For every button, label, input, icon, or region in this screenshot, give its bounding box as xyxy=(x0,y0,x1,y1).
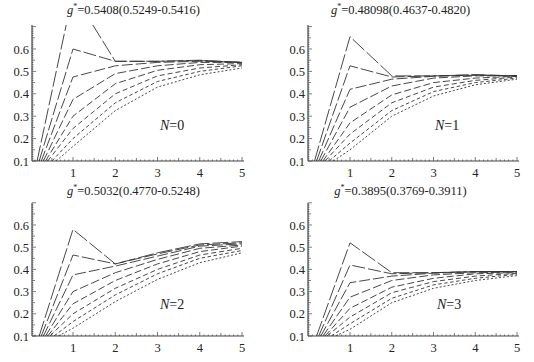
chart-panel-n1: g*=0.48098(0.4637-0.4820) 0.10.20.30.40.… xyxy=(267,0,534,181)
data-series-curve3 xyxy=(41,61,242,161)
x-tick-label: 5 xyxy=(514,166,520,180)
y-tick-label: 0.6 xyxy=(13,219,29,233)
data-series-curve3 xyxy=(43,244,242,336)
axes: 0.10.20.30.40.50.612345 xyxy=(289,25,520,180)
x-tick-label: 4 xyxy=(197,166,204,180)
y-tick-label: 0.5 xyxy=(289,65,305,79)
y-tick-label: 0.5 xyxy=(13,65,29,79)
data-series-curve8 xyxy=(335,276,517,336)
x-tick-label: 3 xyxy=(154,341,160,355)
y-tick-label: 0.2 xyxy=(13,307,29,321)
x-tick-label: 2 xyxy=(112,341,118,355)
data-series-curve6 xyxy=(327,273,517,336)
x-tick-label: 4 xyxy=(472,166,479,180)
x-tick-label: 1 xyxy=(347,341,353,355)
chart-panel-n2: g*=0.5032(0.4770-0.5248) 0.10.20.30.40.5… xyxy=(0,181,267,362)
n-symbol: N xyxy=(437,297,446,312)
x-tick-label: 3 xyxy=(430,166,436,180)
y-tick-label: 0.4 xyxy=(13,263,29,277)
data-series-curve8 xyxy=(58,253,242,336)
n-annotation: N=1 xyxy=(435,118,459,134)
data-series-curve7 xyxy=(331,274,517,336)
data-series-curve1 xyxy=(317,243,517,336)
chart-panel-n3: g*=0.3895(0.3769-0.3911) 0.10.20.30.40.5… xyxy=(267,181,534,362)
series-group xyxy=(317,243,517,336)
y-tick-label: 0.4 xyxy=(289,87,305,101)
y-tick-label: 0.2 xyxy=(289,132,305,146)
y-tick-label: 0.2 xyxy=(13,132,29,146)
data-series-curve3 xyxy=(319,75,517,161)
y-tick-label: 0.5 xyxy=(13,241,29,255)
series-group xyxy=(39,229,242,336)
data-series-curve4 xyxy=(323,272,517,336)
plot-area: 0.10.20.30.40.50.612345 xyxy=(0,0,267,181)
y-tick-label: 0.1 xyxy=(289,330,305,344)
data-series-curve6 xyxy=(325,77,517,161)
n-annotation: N=2 xyxy=(160,297,184,313)
y-tick-label: 0.3 xyxy=(289,285,305,299)
y-tick-label: 0.4 xyxy=(13,87,29,101)
data-series-curve6 xyxy=(50,248,242,336)
y-tick-label: 0.1 xyxy=(289,155,305,169)
axes: 0.10.20.30.40.50.612345 xyxy=(289,203,520,355)
n-value: 2 xyxy=(177,297,184,312)
x-tick-label: 4 xyxy=(197,341,204,355)
data-series-curve4 xyxy=(46,245,243,336)
y-tick-label: 0.3 xyxy=(13,110,29,124)
n-annotation: N=3 xyxy=(437,297,461,313)
x-tick-label: 3 xyxy=(154,166,160,180)
data-series-curve5 xyxy=(46,64,243,161)
y-tick-label: 0.1 xyxy=(13,330,29,344)
x-tick-label: 1 xyxy=(347,166,353,180)
plot-area: 0.10.20.30.40.50.612345 xyxy=(0,181,267,362)
y-tick-label: 0.2 xyxy=(289,307,305,321)
x-tick-label: 1 xyxy=(70,166,76,180)
y-tick-label: 0.4 xyxy=(289,263,305,277)
y-tick-label: 0.3 xyxy=(289,110,305,124)
series-group xyxy=(37,0,242,161)
y-tick-label: 0.1 xyxy=(13,155,29,169)
x-tick-label: 4 xyxy=(472,341,479,355)
x-tick-label: 2 xyxy=(112,166,118,180)
n-symbol: N xyxy=(160,118,169,133)
n-symbol: N xyxy=(435,118,444,133)
y-tick-label: 0.5 xyxy=(289,241,305,255)
plot-area: 0.10.20.30.40.50.612345 xyxy=(267,181,534,362)
x-tick-label: 3 xyxy=(430,341,436,355)
n-value: 3 xyxy=(454,297,461,312)
data-series-curve8 xyxy=(333,79,517,161)
n-annotation: N=0 xyxy=(160,118,184,134)
n-value: 1 xyxy=(452,118,459,133)
y-tick-label: 0.3 xyxy=(13,285,29,299)
x-tick-label: 2 xyxy=(389,341,395,355)
n-value: 0 xyxy=(177,118,184,133)
n-symbol: N xyxy=(160,297,169,312)
y-tick-label: 0.6 xyxy=(289,219,305,233)
data-series-curve4 xyxy=(321,76,517,161)
y-tick-label: 0.6 xyxy=(13,43,29,57)
data-series-curve2 xyxy=(39,49,242,161)
data-series-curve1 xyxy=(37,0,242,161)
x-tick-label: 5 xyxy=(239,341,245,355)
data-series-curve7 xyxy=(54,251,242,337)
data-series-curve7 xyxy=(329,78,517,161)
y-tick-label: 0.6 xyxy=(289,43,305,57)
data-series-curve2 xyxy=(319,265,517,336)
data-series-curve1 xyxy=(315,37,518,161)
x-tick-label: 5 xyxy=(239,166,245,180)
data-series-curve6 xyxy=(48,65,242,161)
x-tick-label: 5 xyxy=(514,341,520,355)
data-series-curve8 xyxy=(56,68,242,161)
plot-area: 0.10.20.30.40.50.612345 xyxy=(267,0,534,181)
x-tick-label: 2 xyxy=(389,166,395,180)
series-group xyxy=(315,37,518,161)
x-tick-label: 1 xyxy=(70,341,76,355)
chart-panel-n0: g*=0.5408(0.5249-0.5416) 0.10.20.30.40.5… xyxy=(0,0,267,181)
